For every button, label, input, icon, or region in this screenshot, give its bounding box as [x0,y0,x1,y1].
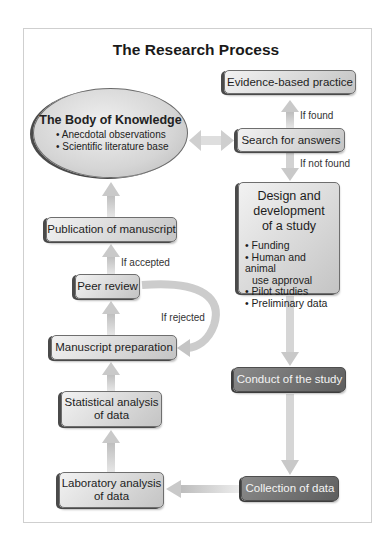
node-label-line: Laboratory analysis [62,477,162,490]
body-of-knowledge-list: Anecdotal observations Scientific litera… [56,129,168,152]
double-arrow-icon [189,130,234,151]
statistical-analysis-node: Statistical analysis of data [61,391,162,427]
if-not-found-label: If not found [300,158,350,169]
arrow-up-icon [281,100,299,128]
node-label: Evidence-based practice [227,76,353,89]
manuscript-preparation-node: Manuscript preparation [51,335,177,360]
node-label: Publication of manuscript [47,223,175,236]
search-for-answers-node: Search for answers [237,128,345,152]
evidence-based-practice-node: Evidence-based practice [224,70,356,94]
node-label: Peer review [77,280,138,293]
node-label-line: Statistical analysis [65,396,159,409]
collection-of-data-node: Collection of data [241,476,339,501]
node-heading-line: of a study [262,219,316,234]
body-of-knowledge-node: The Body of Knowledge Anecdotal observat… [33,88,188,178]
node-label: Conduct of the study [237,373,342,386]
node-label-line: of data [94,409,129,422]
list-item: Pilot studies [245,286,339,298]
if-rejected-label: If rejected [161,312,205,323]
node-heading-line: development [253,204,325,219]
arrow-up-icon [102,362,120,391]
list-item: Anecdotal observations [56,129,168,141]
arrow-up-icon [102,244,120,274]
arrow-left-icon [166,480,241,498]
if-accepted-label: If accepted [121,257,170,268]
conduct-of-study-node: Conduct of the study [233,367,346,392]
list-item: Funding [245,240,339,252]
node-label: Manuscript preparation [55,341,173,354]
node-label: Collection of data [246,482,335,495]
node-label-line: of data [94,490,129,503]
list-item: Human and animal [245,252,339,275]
design-and-development-node: Design and development of a study Fundin… [238,182,340,294]
design-list: Funding Human and animal use approval Pi… [239,240,339,309]
arrow-up-icon [102,182,120,217]
body-of-knowledge-heading: The Body of Knowledge [34,113,187,127]
list-item: Scientific literature base [56,141,168,153]
laboratory-analysis-node: Laboratory analysis of data [59,472,164,508]
arrow-up-icon [102,430,120,472]
arrow-down-icon [281,152,299,181]
arrow-down-icon [281,394,299,475]
list-item: Preliminary data [245,298,339,310]
node-heading-line: Design and [257,189,320,204]
arrow-up-icon [102,301,120,335]
node-label: Search for answers [241,134,340,147]
if-found-label: If found [300,110,333,121]
publication-of-manuscript-node: Publication of manuscript [46,217,177,242]
peer-review-node: Peer review [75,274,140,299]
